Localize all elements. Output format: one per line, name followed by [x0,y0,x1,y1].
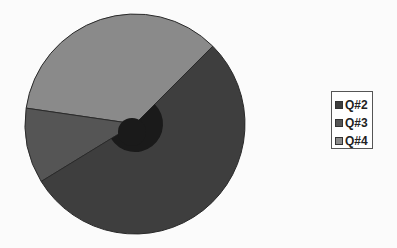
pie-center-dot [118,118,146,146]
legend-label: Q#3 [345,117,368,129]
legend-swatch-q2 [335,101,343,109]
legend-swatch-q3 [335,119,343,127]
legend-swatch-q4 [335,137,343,145]
chart-legend: Q#2 Q#3 Q#4 [331,91,373,149]
legend-label: Q#4 [345,135,368,147]
legend-item-q3: Q#3 [335,114,372,132]
legend-item-q4: Q#4 [335,132,372,150]
pie-chart [0,0,280,248]
legend-item-q2: Q#2 [335,96,372,114]
legend-label: Q#2 [345,99,368,111]
